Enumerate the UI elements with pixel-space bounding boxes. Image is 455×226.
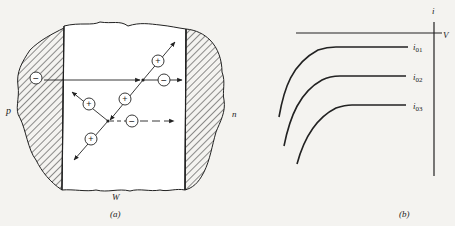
svg-text:+: + [122,94,127,104]
curve-i03 [297,105,406,164]
figure: − − − + + + + p n W (a) [0,0,455,226]
panel-b: i V i01 i02 i03 (b) [279,6,450,219]
depletion-region [62,22,186,191]
axis-label-v: V [443,30,450,40]
label-i02: i02 [413,72,423,84]
hole-top: + [152,55,164,67]
label-n: n [232,109,237,119]
n-region [185,29,224,190]
hole-left: + [83,98,95,110]
hole-center: + [119,93,131,105]
svg-text:−: − [161,75,167,86]
label-p: p [5,105,11,116]
svg-text:+: + [155,56,160,66]
electron-mid: − [126,115,138,127]
panel-a: − − − + + + + p n W (a) [5,22,237,219]
axis-label-i: i [432,6,435,16]
electron-right: − [158,74,170,86]
svg-text:−: − [33,73,39,84]
caption-b: (b) [399,209,410,219]
curve-i02 [284,76,406,146]
label-w: W [112,192,121,202]
svg-text:−: − [129,116,135,127]
hole-bottom: + [85,133,97,145]
generation-point-lower [106,119,109,122]
p-region [17,28,64,190]
label-i03: i03 [413,101,423,113]
electron-left: − [30,72,42,84]
label-i01: i01 [413,42,423,54]
caption-a: (a) [110,209,121,219]
svg-text:+: + [88,134,93,144]
svg-text:+: + [86,99,91,109]
